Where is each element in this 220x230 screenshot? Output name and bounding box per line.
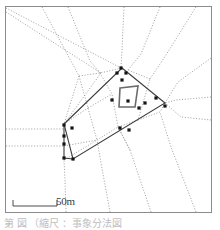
map-frame (6, 7, 212, 213)
site-point (126, 99, 129, 102)
site-point (163, 104, 166, 107)
site-point (62, 123, 65, 126)
site-plan-figure: 50m 第 図 （縮尺 ：事象分法図 (0, 0, 220, 230)
site-point (110, 98, 113, 101)
site-point (62, 156, 65, 159)
site-point (124, 71, 127, 74)
site-point (62, 134, 65, 137)
site-point (62, 142, 65, 145)
site-point (143, 101, 146, 104)
site-point (120, 78, 123, 81)
figure-caption: 第 図 （縮尺 ：事象分法図 (4, 218, 220, 230)
site-point (137, 106, 140, 109)
site-point (115, 71, 118, 74)
site-point (70, 126, 73, 129)
site-point (71, 157, 74, 160)
figure-caption-strip: 第 図 （縮尺 ：事象分法図 (0, 218, 220, 230)
site-point (154, 96, 157, 99)
site-point (127, 128, 130, 131)
site-point (119, 66, 122, 69)
site-point (118, 126, 121, 129)
scale-bar-label: 50m (56, 195, 75, 207)
map-canvas (0, 0, 220, 230)
